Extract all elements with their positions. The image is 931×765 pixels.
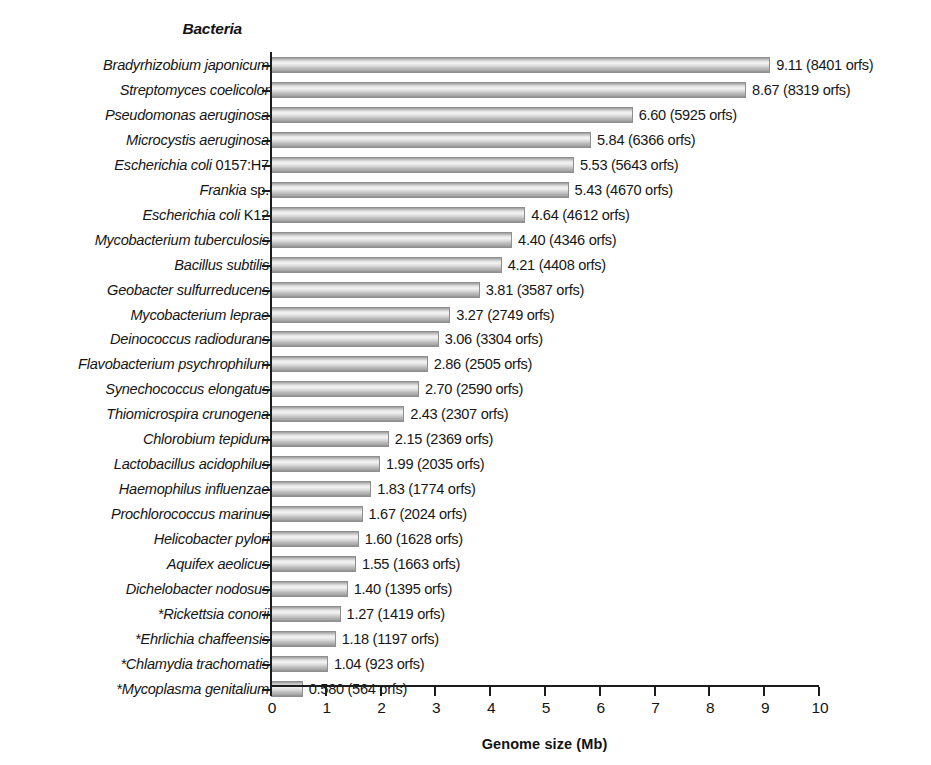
bar-category-label: *Ehrlichia chaffeensis (7, 631, 269, 648)
bar-value-label: 1.04 (923 orfs) (334, 655, 424, 673)
bar-row: Flavobacterium psychrophilum2.86 (2505 o… (0, 353, 931, 378)
bar-value-label: 1.27 (1419 orfs) (347, 605, 445, 623)
x-axis-tick (818, 687, 820, 696)
bar-row: Frankia sp.5.43 (4670 orfs) (0, 179, 931, 204)
bar (271, 506, 363, 522)
bar-row: Deinococcus radiodurans3.06 (3304 orfs) (0, 328, 931, 353)
x-axis-tick-label: 1 (307, 699, 347, 717)
x-axis-tick-label: 0 (252, 699, 292, 717)
bar (271, 307, 450, 323)
bar-row: Geobacter sulfurreducens3.81 (3587 orfs) (0, 279, 931, 304)
bar-row: Escherichia coli K124.64 (4612 orfs) (0, 204, 931, 229)
bar-row: Thiomicrospira crunogena2.43 (2307 orfs) (0, 403, 931, 428)
bar-category-label: Escherichia coli 0157:H7 (7, 157, 269, 174)
bar-category-label: Pseudomonas aeruginosa (7, 107, 269, 124)
bar-value-label: 4.21 (4408 orfs) (508, 256, 606, 274)
bar-row: Helicobacter pylori1.60 (1628 orfs) (0, 528, 931, 553)
bar-row: *Mycoplasma genitalium0.580 (564 orfs) (0, 678, 931, 703)
bar-row: Streptomyces coelicolor8.67 (8319 orfs) (0, 79, 931, 104)
bar-row: Pseudomonas aeruginosa6.60 (5925 orfs) (0, 104, 931, 129)
bar-row: Haemophilus influenzae1.83 (1774 orfs) (0, 478, 931, 503)
bar-row: Microcystis aeruginosa5.84 (6366 orfs) (0, 129, 931, 154)
bar-category-label: *Chlamydia trachomatis (7, 656, 269, 673)
x-axis-tick (270, 687, 272, 696)
x-axis-tick (325, 687, 327, 696)
bar (271, 282, 480, 298)
bar-category-label: Synechococcus elongatus (7, 381, 269, 398)
bar (271, 681, 303, 697)
bar-value-label: 5.43 (4670 orfs) (575, 181, 673, 199)
bar-row: *Ehrlichia chaffeensis1.18 (1197 orfs) (0, 628, 931, 653)
x-axis-tick-label: 2 (362, 699, 402, 717)
bar-category-label: *Mycoplasma genitalium (7, 681, 269, 698)
bar-row: Lactobacillus acidophilus1.99 (2035 orfs… (0, 453, 931, 478)
bar (271, 182, 569, 198)
bar-category-label: Mycobacterium tuberculosis (7, 232, 269, 249)
bar-category-label: Lactobacillus acidophilus (7, 456, 269, 473)
x-axis-tick (654, 687, 656, 696)
bar-value-label: 3.06 (3304 orfs) (445, 330, 543, 348)
bar-value-label: 1.67 (2024 orfs) (369, 505, 467, 523)
bar (271, 431, 389, 447)
bar-category-label: Microcystis aeruginosa (7, 132, 269, 149)
bar-category-label: Dichelobacter nodosus (7, 581, 269, 598)
bar (271, 331, 439, 347)
bar-value-label: 1.83 (1774 orfs) (377, 480, 475, 498)
bar-value-label: 2.86 (2505 orfs) (434, 355, 532, 373)
bar-row: Aquifex aeolicus1.55 (1663 orfs) (0, 553, 931, 578)
bar (271, 406, 404, 422)
bar (271, 481, 371, 497)
y-axis-line (270, 52, 272, 686)
x-axis-tick-label: 10 (800, 699, 840, 717)
bar (271, 107, 633, 123)
x-axis-tick (599, 687, 601, 696)
x-axis-tick (763, 687, 765, 696)
bar (271, 581, 348, 597)
bar-value-label: 3.81 (3587 orfs) (486, 281, 584, 299)
bar-value-label: 1.55 (1663 orfs) (362, 555, 460, 573)
bar-value-label: 4.64 (4612 orfs) (531, 206, 629, 224)
bar (271, 356, 428, 372)
bar-value-label: 0.580 (564 orfs) (309, 680, 407, 698)
bar-category-label: Mycobacterium leprae (7, 307, 269, 324)
bar-row: Mycobacterium leprae3.27 (2749 orfs) (0, 304, 931, 329)
bar-value-label: 1.18 (1197 orfs) (342, 630, 439, 648)
bar-category-label: Escherichia coli K12 (7, 207, 269, 224)
x-axis-tick-label: 6 (581, 699, 621, 717)
bar-row: Chlorobium tepidum2.15 (2369 orfs) (0, 428, 931, 453)
bar-value-label: 2.15 (2369 orfs) (395, 430, 493, 448)
x-axis-tick-label: 8 (690, 699, 730, 717)
bar-category-label: Prochlorococcus marinus (7, 506, 269, 523)
bar-row: Dichelobacter nodosus1.40 (1395 orfs) (0, 578, 931, 603)
bar-value-label: 8.67 (8319 orfs) (752, 81, 850, 99)
bar-row: Bradyrhizobium japonicum9.11 (8401 orfs) (0, 54, 931, 79)
bar-category-label: *Rickettsia conorii (7, 606, 269, 623)
bar-row: Synechococcus elongatus2.70 (2590 orfs) (0, 378, 931, 403)
bar-value-label: 2.70 (2590 orfs) (425, 380, 523, 398)
bar-value-label: 4.40 (4346 orfs) (518, 231, 616, 249)
x-axis-tick (380, 687, 382, 696)
x-axis-tick (544, 687, 546, 696)
x-axis-tick (434, 687, 436, 696)
bar-value-label: 9.11 (8401 orfs) (776, 56, 873, 74)
bar-value-label: 1.40 (1395 orfs) (354, 580, 452, 598)
bar-value-label: 6.60 (5925 orfs) (639, 106, 737, 124)
bar-category-label: Haemophilus influenzae (7, 481, 269, 498)
x-axis-tick-label: 4 (471, 699, 511, 717)
bar (271, 232, 512, 248)
bar-value-label: 3.27 (2749 orfs) (456, 306, 554, 324)
bar-category-label: Helicobacter pylori (7, 531, 269, 548)
bar-category-label: Streptomyces coelicolor (7, 82, 269, 99)
x-axis-tick (489, 687, 491, 696)
bar (271, 556, 356, 572)
bar-category-label: Bacillus subtilis (7, 257, 269, 274)
bar (271, 82, 746, 98)
bar-category-label: Frankia sp. (7, 182, 269, 199)
bar-row: *Chlamydia trachomatis1.04 (923 orfs) (0, 653, 931, 678)
bar (271, 606, 341, 622)
bar (271, 381, 419, 397)
bar-row: *Rickettsia conorii1.27 (1419 orfs) (0, 603, 931, 628)
bar-row: Escherichia coli 0157:H75.53 (5643 orfs) (0, 154, 931, 179)
bar-row: Prochlorococcus marinus1.67 (2024 orfs) (0, 503, 931, 528)
x-axis-title: Genome size (Mb) (270, 736, 819, 752)
